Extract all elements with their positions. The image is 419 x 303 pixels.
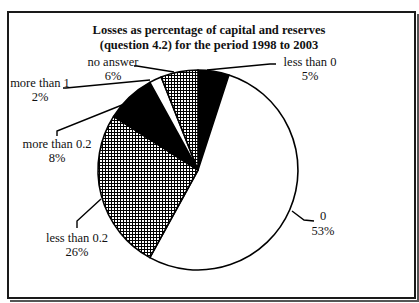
- value-less-than-0-2: 26%: [66, 245, 89, 259]
- chart-title-line-2: (question 4.2) for the period 1998 to 20…: [100, 38, 319, 52]
- label-more-than-0-2: more than 0.2: [22, 137, 91, 151]
- label-less-than-0-2: less than 0.2: [46, 231, 108, 245]
- label-no-answer: no answer: [87, 55, 139, 69]
- leader-less-than-0: [207, 64, 276, 70]
- chart-title-line-1: Losses as percentage of capital and rese…: [93, 23, 326, 37]
- leader-less-than-0-2: [77, 199, 101, 228]
- label-0: 0: [320, 209, 326, 223]
- value-less-than-0: 5%: [302, 69, 319, 83]
- label-more-than-1: more than 1: [10, 76, 70, 90]
- value-more-than-0-2: 8%: [49, 151, 66, 165]
- leader-no-answer: [134, 66, 174, 72]
- value-0: 53%: [312, 224, 335, 238]
- value-no-answer: 6%: [105, 69, 122, 83]
- pie-chart: Losses as percentage of capital and rese…: [0, 0, 419, 303]
- label-less-than-0: less than 0: [284, 55, 337, 69]
- value-more-than-1: 2%: [32, 90, 49, 104]
- leader-0: [292, 211, 314, 221]
- pie-slices: [98, 70, 298, 270]
